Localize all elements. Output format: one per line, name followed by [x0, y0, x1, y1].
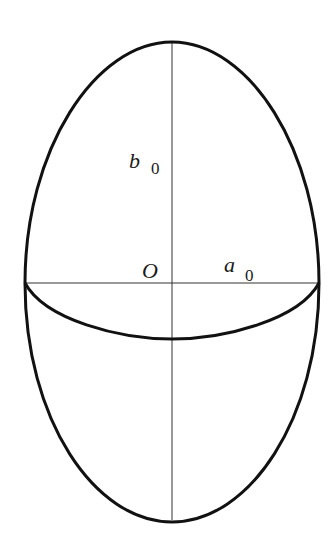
- ellipsoid-diagram: b 0 O a 0: [0, 0, 331, 547]
- semi-major-label: b: [129, 148, 140, 173]
- semi-minor-subscript: 0: [245, 266, 254, 285]
- semi-minor-label: a: [224, 252, 235, 277]
- semi-major-subscript: 0: [151, 159, 160, 178]
- origin-label: O: [142, 258, 158, 283]
